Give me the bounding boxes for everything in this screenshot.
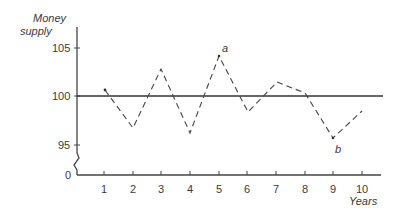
series-start-point	[104, 89, 107, 92]
annotation-b: b	[335, 143, 341, 155]
point-a-marker	[218, 55, 221, 58]
chart-canvas	[0, 0, 402, 211]
x-tick-label-8: 8	[302, 183, 308, 195]
point-b-marker	[332, 137, 335, 140]
x-tick-label-9: 9	[330, 183, 336, 195]
y-axis-label-line2: supply	[20, 25, 52, 37]
x-tick-label-10: 10	[356, 183, 368, 195]
x-axis-label: Years	[349, 195, 377, 207]
money-supply-series	[105, 56, 362, 138]
x-tick-label-5: 5	[216, 183, 222, 195]
x-tick-label-2: 2	[130, 183, 136, 195]
y-tick-label-0: 0	[65, 169, 71, 181]
x-tick-label-3: 3	[158, 183, 164, 195]
x-tick-label-7: 7	[273, 183, 279, 195]
y-tick-label-100: 100	[52, 90, 70, 102]
axis-break-icon	[74, 153, 79, 175]
x-tick-label-1: 1	[101, 183, 107, 195]
y-axis-label-line1: Money	[33, 12, 66, 24]
y-tick-label-95: 95	[58, 139, 70, 151]
x-tick-label-4: 4	[187, 183, 193, 195]
x-tick-label-6: 6	[244, 183, 250, 195]
y-tick-label-105: 105	[52, 42, 70, 54]
annotation-a: a	[222, 42, 228, 54]
